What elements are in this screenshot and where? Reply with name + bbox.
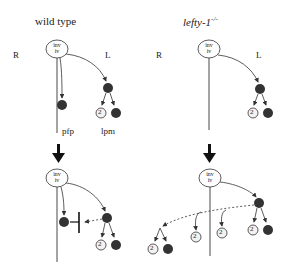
pfp-label: pfp xyxy=(62,127,74,136)
mut-bottom-node: inviv xyxy=(200,171,220,183)
mutant-title: lefty-1-/- xyxy=(183,16,218,28)
open-node-label: 2 xyxy=(98,109,102,116)
transition-arrow-left xyxy=(52,144,65,163)
open-node-label: 2 xyxy=(250,109,254,116)
wt-right-label: R xyxy=(13,51,19,60)
mutant-title-superscript: -/- xyxy=(211,15,218,23)
wt-top-node: inviv xyxy=(47,42,67,54)
open-node-label: 2 xyxy=(250,226,254,233)
open-node-label: 2 xyxy=(193,233,197,240)
mut-left-label: L xyxy=(256,51,262,60)
diagram-canvas xyxy=(0,0,283,268)
wild-type-title: wild type xyxy=(35,16,76,27)
open-node-label: 2 xyxy=(98,241,102,248)
open-node-label: 2 xyxy=(219,229,223,236)
mut-top-node: inviv xyxy=(199,42,219,54)
mutant-title-main: lefty-1 xyxy=(183,16,211,28)
lpm-label: lpm xyxy=(101,127,115,136)
wt-left-label: L xyxy=(105,51,111,60)
node-iv: iv xyxy=(47,48,67,54)
node-iv: iv xyxy=(47,177,67,183)
mut-right-label: R xyxy=(156,51,162,60)
transition-arrow-right xyxy=(203,144,216,163)
wt-bottom-node: inviv xyxy=(47,171,67,183)
open-node-label: 2 xyxy=(150,245,154,252)
node-iv: iv xyxy=(200,177,220,183)
node-iv: iv xyxy=(199,48,219,54)
